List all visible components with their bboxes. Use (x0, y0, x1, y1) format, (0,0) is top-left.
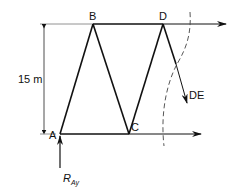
truss-diagram: 15 m DE RAy A B C D (0, 0, 236, 192)
member-DE-stub (163, 24, 176, 64)
node-label-A: A (49, 129, 57, 141)
member-CD (129, 24, 163, 134)
DE-force-arrow (176, 64, 187, 103)
member-BC (93, 24, 129, 134)
member-AB (60, 24, 93, 134)
node-label-B: B (89, 10, 96, 22)
dimension-label: 15 m (18, 73, 42, 85)
node-label-D: D (159, 10, 167, 22)
DE-force-label: DE (189, 89, 204, 101)
section-cut-line (163, 12, 190, 146)
reaction-label: RAy (63, 172, 80, 187)
node-label-C: C (131, 121, 139, 133)
